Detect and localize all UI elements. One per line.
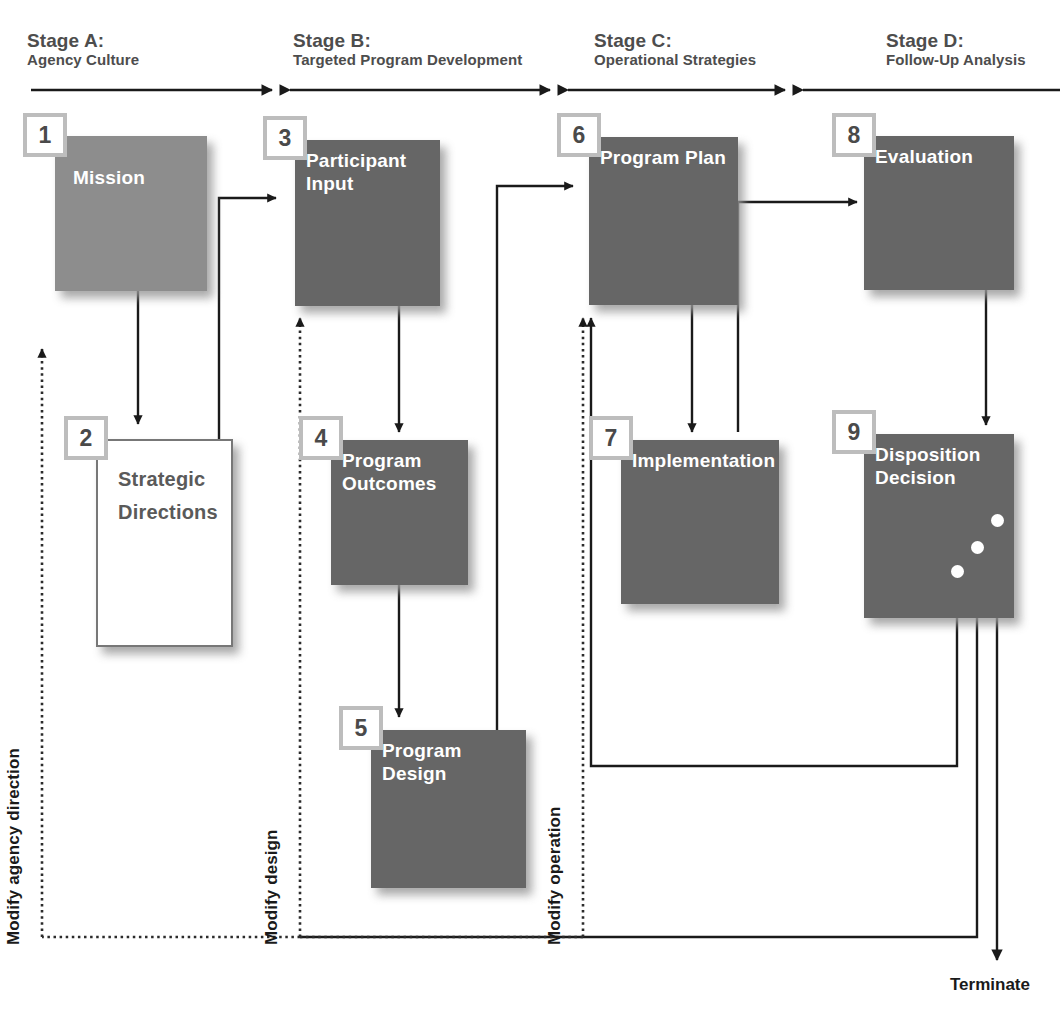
node-6-label: Program Plan <box>589 137 738 169</box>
node-2-label: Strategic Directions <box>96 439 233 529</box>
stage-b-title: Stage B: <box>293 30 522 51</box>
node-5-label: Program Design <box>371 730 526 785</box>
node-tag-1: 1 <box>23 113 67 157</box>
node-tag-6: 6 <box>557 113 601 157</box>
stage-header-b: Stage B: Targeted Program Development <box>293 30 522 69</box>
node-tag-5: 5 <box>339 706 383 750</box>
node-7-label: Implementation <box>621 440 779 472</box>
node-tag-9: 9 <box>832 410 876 454</box>
edge-strategic-to-participant <box>219 198 276 439</box>
node-tag-8: 8 <box>832 113 876 157</box>
node-1-label: Mission <box>55 136 207 189</box>
node-8-label: Evaluation <box>864 136 1014 168</box>
node-tag-4: 4 <box>299 416 343 460</box>
diagram-canvas: Stage A: Agency Culture Stage B: Targete… <box>0 0 1064 1015</box>
stage-header-c: Stage C: Operational Strategies <box>594 30 756 69</box>
feedback-label-modify-operation: Modify operation <box>545 806 565 945</box>
node-5-program-design[interactable]: Program Design <box>371 730 526 888</box>
node-9-disposition-decision[interactable]: Disposition Decision <box>864 434 1014 618</box>
stage-a-subtitle: Agency Culture <box>27 51 139 69</box>
stage-header-a: Stage A: Agency Culture <box>27 30 139 69</box>
node-tag-7: 7 <box>589 416 633 460</box>
feedback-label-modify-design: Modify design <box>262 829 282 945</box>
feedback-label-modify-agency-direction: Modify agency direction <box>4 748 24 945</box>
node-6-program-plan[interactable]: Program Plan <box>589 137 738 305</box>
stage-c-title: Stage C: <box>594 30 756 51</box>
node-8-evaluation[interactable]: Evaluation <box>864 136 1014 290</box>
decision-dot-1 <box>951 565 964 578</box>
node-9-label: Disposition Decision <box>864 434 1014 489</box>
node-2-strategic-directions[interactable]: Strategic Directions <box>96 439 233 647</box>
node-3-label: Participant Input <box>295 140 440 195</box>
node-tag-2: 2 <box>64 416 108 460</box>
node-4-label: Program Outcomes <box>331 440 468 495</box>
node-1-mission[interactable]: Mission <box>55 136 207 291</box>
stage-header-d: Stage D: Follow-Up Analysis <box>886 30 1026 69</box>
stage-d-title: Stage D: <box>886 30 1026 51</box>
stage-b-subtitle: Targeted Program Development <box>293 51 522 69</box>
stage-d-subtitle: Follow-Up Analysis <box>886 51 1026 69</box>
node-3-participant-input[interactable]: Participant Input <box>295 140 440 306</box>
stage-c-subtitle: Operational Strategies <box>594 51 756 69</box>
terminate-label: Terminate <box>950 975 1030 995</box>
decision-dot-3 <box>991 514 1004 527</box>
node-4-program-outcomes[interactable]: Program Outcomes <box>331 440 468 585</box>
decision-dot-2 <box>971 541 984 554</box>
stage-a-title: Stage A: <box>27 30 139 51</box>
edge-design-to-plan <box>497 186 573 730</box>
node-7-implementation[interactable]: Implementation <box>621 440 779 604</box>
node-tag-3: 3 <box>263 116 307 160</box>
